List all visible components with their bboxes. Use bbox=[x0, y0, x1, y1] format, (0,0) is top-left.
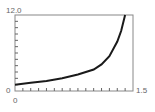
data-line bbox=[15, 15, 125, 85]
y-min-label: 0 bbox=[6, 87, 10, 95]
x-min-label: 0 bbox=[13, 97, 17, 105]
y-max-label: 12.0 bbox=[6, 7, 22, 15]
chart-canvas bbox=[0, 0, 155, 112]
x-max-label: 1.5 bbox=[136, 87, 147, 95]
plot-frame bbox=[15, 15, 133, 91]
